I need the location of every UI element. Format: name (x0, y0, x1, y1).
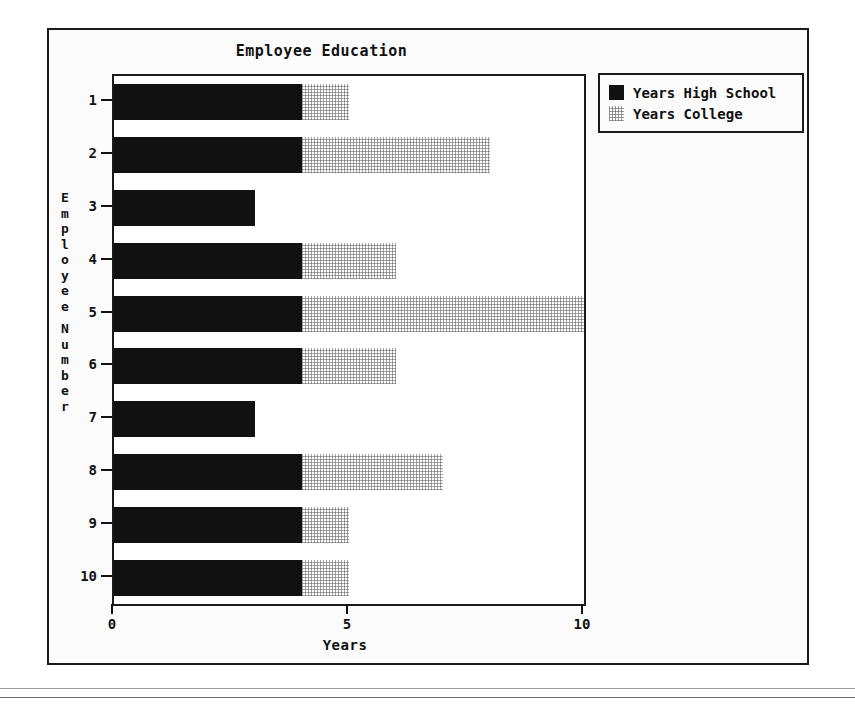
x-axis-tick (581, 604, 583, 614)
y-axis-tick (101, 311, 112, 313)
bar-segment-high-school (114, 84, 302, 120)
page-divider-upper (0, 688, 855, 689)
legend-item: Years College (609, 103, 793, 124)
x-axis-tick (346, 604, 348, 614)
bar-segment-college (302, 84, 349, 120)
legend-item-label: Years College (633, 106, 743, 122)
y-axis-title-gap (56, 314, 74, 321)
y-axis-tick (101, 522, 112, 524)
bar-row (114, 137, 490, 173)
bar-segment-high-school (114, 401, 255, 437)
y-axis-tick (101, 258, 112, 260)
y-axis-title-letter: m (56, 352, 74, 368)
bar-row (114, 560, 349, 596)
y-axis-title-letter: E (56, 190, 74, 206)
bar-segment-high-school (114, 190, 255, 226)
y-axis-tick-label: 10 (57, 568, 97, 584)
bar-row (114, 296, 584, 332)
legend-item: Years High School (609, 82, 793, 103)
y-axis-title-letter: e (56, 383, 74, 399)
x-axis-tick-label: 5 (325, 616, 369, 632)
y-axis-title-letter: m (56, 206, 74, 222)
y-axis-title-letter: u (56, 337, 74, 353)
bar-segment-college (302, 296, 584, 332)
bar-segment-college (302, 507, 349, 543)
y-axis-title-letter: e (56, 283, 74, 299)
bar-row (114, 243, 396, 279)
y-axis-tick-label: 9 (57, 515, 97, 531)
page-divider-lower (0, 697, 855, 698)
bar-segment-college (302, 454, 443, 490)
y-axis-title-letter: e (56, 299, 74, 315)
y-axis-tick (101, 152, 112, 154)
y-axis-tick (101, 363, 112, 365)
y-axis-title-letter: y (56, 268, 74, 284)
y-axis-title: EmployeeNumber (56, 190, 74, 414)
y-axis-tick (101, 205, 112, 207)
bar-segment-high-school (114, 560, 302, 596)
y-axis-tick (101, 575, 112, 577)
y-axis-tick-label: 2 (57, 145, 97, 161)
y-axis-tick (101, 416, 112, 418)
bar-segment-college (302, 137, 490, 173)
bar-segment-high-school (114, 507, 302, 543)
y-axis-title-letter: b (56, 368, 74, 384)
y-axis-title-letter: r (56, 399, 74, 415)
y-axis-tick-label: 1 (57, 92, 97, 108)
bar-segment-college (302, 560, 349, 596)
y-axis-tick (101, 99, 112, 101)
x-axis-tick (111, 604, 113, 614)
y-axis-title-letter: l (56, 237, 74, 253)
bar-row (114, 190, 255, 226)
bar-segment-high-school (114, 296, 302, 332)
bar-segment-high-school (114, 348, 302, 384)
y-axis-tick-label: 8 (57, 462, 97, 478)
dotted-light-swatch-icon (609, 106, 624, 121)
x-axis-tick-label: 0 (90, 616, 134, 632)
legend-item-label: Years High School (633, 85, 776, 101)
bar-row (114, 348, 396, 384)
bar-row (114, 454, 443, 490)
bar-segment-high-school (114, 454, 302, 490)
y-axis-title-letter: N (56, 321, 74, 337)
bar-segment-college (302, 348, 396, 384)
x-axis-tick-label: 10 (560, 616, 604, 632)
bar-segment-high-school (114, 243, 302, 279)
plot-area (112, 74, 586, 606)
bar-segment-high-school (114, 137, 302, 173)
bar-row (114, 507, 349, 543)
chart-title: Employee Education (49, 42, 594, 60)
y-axis-title-letter: o (56, 252, 74, 268)
bar-row (114, 84, 349, 120)
chart-legend: Years High School Years College (598, 73, 804, 133)
bar-row (114, 401, 255, 437)
solid-black-swatch-icon (609, 85, 624, 100)
x-axis-title: Years (110, 637, 580, 653)
y-axis-tick (101, 469, 112, 471)
y-axis-title-letter: p (56, 221, 74, 237)
bar-segment-college (302, 243, 396, 279)
